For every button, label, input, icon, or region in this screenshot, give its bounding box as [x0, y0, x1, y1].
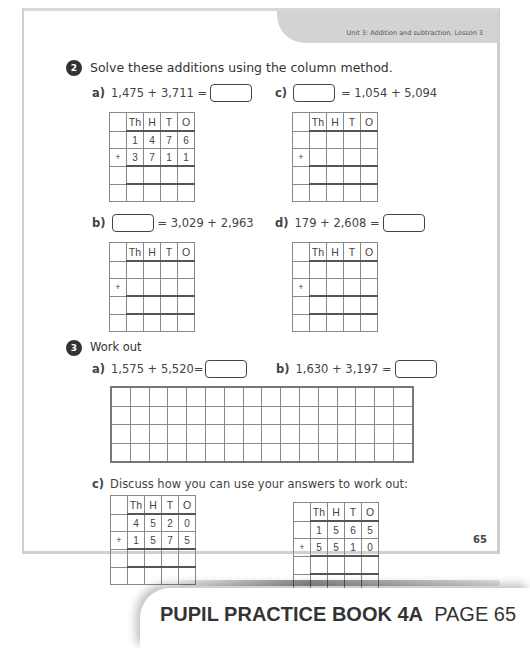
expression: 1,475 + 3,711 =: [111, 86, 207, 100]
input-cell[interactable]: [178, 279, 195, 297]
answer-cell[interactable]: [144, 166, 161, 184]
answer-cell[interactable]: [344, 296, 361, 314]
col-t: T: [344, 113, 361, 132]
answer-cell[interactable]: [145, 549, 162, 567]
input-cell[interactable]: [161, 279, 178, 297]
plus-sign: +: [110, 149, 127, 167]
col-h: H: [327, 243, 344, 262]
answer-cell[interactable]: [179, 549, 196, 567]
carry-cell[interactable]: [127, 314, 144, 332]
input-cell[interactable]: [144, 261, 161, 279]
col-o: O: [178, 113, 195, 132]
part-label: c): [275, 86, 287, 100]
digit: 5: [179, 532, 196, 550]
carry-cell[interactable]: [145, 567, 162, 585]
answer-cell[interactable]: [361, 166, 378, 184]
answer-cell[interactable]: [144, 296, 161, 314]
input-cell[interactable]: [327, 261, 344, 279]
answer-cell[interactable]: [162, 549, 179, 567]
expression: 1,630 + 3,197 =: [296, 362, 392, 376]
digit: 4: [144, 131, 161, 149]
working-grid[interactable]: [110, 386, 414, 463]
input-cell[interactable]: [344, 131, 361, 149]
question-3-badge: 3: [66, 340, 82, 356]
input-cell[interactable]: [178, 261, 195, 279]
carry-cell[interactable]: [144, 184, 161, 202]
input-cell[interactable]: [361, 279, 378, 297]
answer-cell[interactable]: [361, 296, 378, 314]
input-cell[interactable]: [327, 131, 344, 149]
answer-cell[interactable]: [178, 166, 195, 184]
answer-cell[interactable]: [327, 166, 344, 184]
input-cell[interactable]: [361, 131, 378, 149]
input-cell[interactable]: [127, 279, 144, 297]
digit: 0: [179, 514, 196, 532]
carry-cell[interactable]: [327, 314, 344, 332]
part-label: b): [92, 216, 106, 230]
digit: 7: [162, 532, 179, 550]
digit: 5: [328, 539, 345, 557]
carry-cell[interactable]: [178, 314, 195, 332]
answer-cell[interactable]: [127, 166, 144, 184]
answer-cell[interactable]: [178, 296, 195, 314]
answer-cell[interactable]: [127, 296, 144, 314]
answer-cell[interactable]: [327, 296, 344, 314]
answer-cell[interactable]: [328, 556, 345, 574]
answer-cell[interactable]: [344, 166, 361, 184]
carry-cell[interactable]: [144, 314, 161, 332]
digit: 6: [345, 521, 362, 539]
col-o: O: [361, 243, 378, 262]
input-cell[interactable]: [310, 149, 327, 167]
input-cell[interactable]: [310, 131, 327, 149]
input-cell[interactable]: [327, 149, 344, 167]
input-cell[interactable]: [327, 279, 344, 297]
input-cell[interactable]: [344, 261, 361, 279]
answer-cell[interactable]: [310, 296, 327, 314]
col-t: T: [344, 243, 361, 262]
carry-cell[interactable]: [161, 184, 178, 202]
answer-box-2d[interactable]: [383, 214, 425, 232]
carry-cell[interactable]: [127, 184, 144, 202]
plus-sign: +: [110, 279, 127, 297]
carry-cell[interactable]: [361, 184, 378, 202]
carry-cell[interactable]: [344, 314, 361, 332]
carry-cell[interactable]: [310, 314, 327, 332]
answer-cell[interactable]: [128, 549, 145, 567]
answer-box-2c[interactable]: [293, 84, 335, 102]
carry-cell[interactable]: [128, 567, 145, 585]
answer-cell[interactable]: [161, 166, 178, 184]
digit: 7: [161, 131, 178, 149]
answer-cell[interactable]: [362, 556, 379, 574]
input-cell[interactable]: [161, 261, 178, 279]
col-h: H: [327, 113, 344, 132]
input-cell[interactable]: [344, 149, 361, 167]
answer-box-2b[interactable]: [112, 214, 154, 232]
digit: 1: [161, 149, 178, 167]
answer-cell[interactable]: [310, 166, 327, 184]
answer-box-3a[interactable]: [205, 360, 247, 378]
answer-box-3b[interactable]: [395, 360, 437, 378]
carry-cell[interactable]: [310, 184, 327, 202]
input-cell[interactable]: [310, 279, 327, 297]
part-label: a): [92, 86, 105, 100]
carry-cell[interactable]: [344, 184, 361, 202]
answer-cell[interactable]: [345, 556, 362, 574]
input-cell[interactable]: [344, 279, 361, 297]
carry-cell[interactable]: [161, 314, 178, 332]
input-cell[interactable]: [361, 149, 378, 167]
answer-cell[interactable]: [311, 556, 328, 574]
place-value-grid-3c-right: ThHTO 1565 +5510: [293, 502, 379, 592]
answer-cell[interactable]: [161, 296, 178, 314]
input-cell[interactable]: [361, 261, 378, 279]
col-t: T: [162, 496, 179, 515]
carry-cell[interactable]: [327, 184, 344, 202]
carry-cell[interactable]: [178, 184, 195, 202]
input-cell[interactable]: [310, 261, 327, 279]
carry-cell[interactable]: [162, 567, 179, 585]
answer-box-2a[interactable]: [210, 84, 252, 102]
part-label: d): [275, 216, 289, 230]
part-2a: a) 1,475 + 3,711 =: [92, 84, 252, 102]
input-cell[interactable]: [144, 279, 161, 297]
input-cell[interactable]: [127, 261, 144, 279]
carry-cell[interactable]: [361, 314, 378, 332]
